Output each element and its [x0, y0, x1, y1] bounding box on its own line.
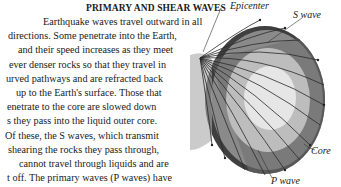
- core-label: Core: [311, 145, 331, 156]
- body-line: directions. Some penetrate into the Eart…: [0, 29, 217, 43]
- body-line: shearing the rocks they pass through,: [0, 143, 217, 157]
- body-line: s they pass into the liquid outer core.: [0, 114, 217, 128]
- body-line: ever denser rocks so that they travel in: [0, 58, 217, 72]
- body-line: Earthquake waves travel outward in all: [0, 15, 217, 29]
- body-line: cannot travel through liquids and are: [0, 157, 217, 171]
- earth-cross-section-diagram: [190, 0, 341, 187]
- body-line: enetrate to the core are slowed down: [0, 100, 217, 114]
- body-paragraph: Earthquake waves travel outward in all d…: [0, 15, 217, 187]
- p-wave-label: P wave: [271, 175, 300, 186]
- inner-core-layer: [244, 66, 296, 130]
- s-wave-label: S wave: [293, 9, 321, 20]
- body-line: up to the Earth's surface. Those that: [0, 86, 217, 100]
- body-line: urved pathways and are refracted back: [0, 72, 217, 86]
- body-line: t off. The primary waves (P waves) have: [0, 171, 217, 185]
- epicenter-label: Epicenter: [230, 0, 269, 11]
- body-line: Of these, the S waves, which transmit: [0, 129, 217, 143]
- body-line: a simpler motion so they travel faster a…: [0, 185, 217, 187]
- body-line: and their speed increases as they meet: [0, 43, 217, 57]
